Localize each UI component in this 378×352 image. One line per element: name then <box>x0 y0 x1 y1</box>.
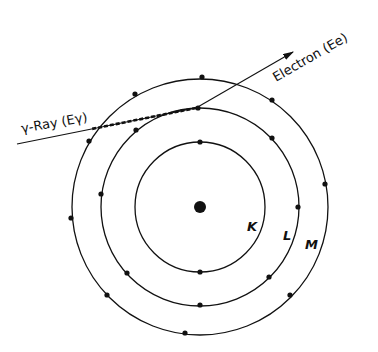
shell-label-m: M <box>305 237 318 252</box>
electron-dot <box>322 181 327 186</box>
electron-dot <box>197 139 202 144</box>
electron-dot <box>86 138 91 143</box>
shell-label-l: L <box>283 228 291 243</box>
electron-dot <box>104 292 109 297</box>
shell-label-k: K <box>247 219 258 234</box>
electron-dot <box>295 204 300 209</box>
electron-dot <box>68 215 73 220</box>
electron-dot <box>182 330 187 335</box>
electron-dot <box>98 191 103 196</box>
atom-diagram: γ-Ray (Eγ) Electron (Ee) K L M <box>0 0 378 352</box>
electron-dot <box>197 302 202 307</box>
electron-dot <box>199 74 204 79</box>
electron-dot <box>269 97 274 102</box>
electron-dot <box>133 127 138 132</box>
electron-dot <box>124 270 129 275</box>
electron-dot <box>269 135 274 140</box>
electron-dot <box>266 274 271 279</box>
electron-dot <box>132 91 137 96</box>
electron-label: Electron (Ee) <box>270 30 350 85</box>
electron-dot <box>197 269 202 274</box>
electron-dot <box>287 292 292 297</box>
nucleus <box>194 201 206 213</box>
